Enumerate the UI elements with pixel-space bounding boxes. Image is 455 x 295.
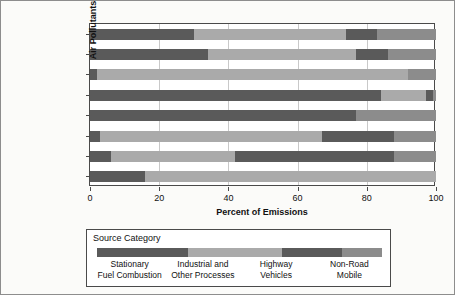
y-tick-mark <box>86 176 90 177</box>
legend-swatch <box>282 248 342 257</box>
bar-segment <box>90 29 194 40</box>
plot-area: Direct PM2.5Direct PM10NH3SO2NOxVOCCOLea… <box>89 23 435 186</box>
x-tick-mark <box>367 187 368 191</box>
bar-row <box>90 69 434 80</box>
legend-swatch <box>342 248 382 257</box>
bar-segment <box>97 69 408 80</box>
bar-row <box>90 49 434 60</box>
bar-row <box>90 171 434 182</box>
x-tick-label: 40 <box>208 193 248 203</box>
bar-segment <box>408 69 436 80</box>
bar-segment <box>381 90 426 101</box>
y-tick-mark <box>86 115 90 116</box>
legend-label: StationaryFuel Combustion <box>93 259 166 281</box>
bar-row <box>90 110 434 121</box>
bar-segment <box>90 151 111 162</box>
legend-swatch <box>97 248 188 257</box>
legend-label: HighwayVehicles <box>240 259 313 281</box>
legend-swatch <box>188 248 282 257</box>
bars-group <box>90 24 434 185</box>
legend-labels: StationaryFuel CombustionIndustrial andO… <box>93 259 386 281</box>
bar-segment <box>90 110 242 121</box>
x-axis-title: Percent of Emissions <box>89 207 435 217</box>
legend-swatch-bar <box>97 248 382 257</box>
bar-segment <box>145 171 436 182</box>
bar-segment <box>100 131 321 142</box>
bar-segment <box>346 29 377 40</box>
bar-segment <box>388 49 436 60</box>
legend-title: Source Category <box>93 233 161 243</box>
bar-segment <box>208 49 357 60</box>
bar-segment <box>90 90 381 101</box>
bar-segment <box>242 110 356 121</box>
bar-row <box>90 151 434 162</box>
y-axis-title: Air Pollutants <box>88 0 98 80</box>
y-tick-mark <box>86 95 90 96</box>
x-tick-mark <box>298 187 299 191</box>
bar-segment <box>433 90 436 101</box>
bar-segment <box>90 49 208 60</box>
bar-segment <box>111 151 236 162</box>
bar-segment <box>394 151 436 162</box>
bar-segment <box>377 29 436 40</box>
bar-segment <box>194 29 346 40</box>
bar-segment <box>356 110 436 121</box>
x-tick-label: 0 <box>70 193 110 203</box>
bar-segment <box>426 90 433 101</box>
bar-row <box>90 29 434 40</box>
x-tick-label: 60 <box>278 193 318 203</box>
legend: Source Category StationaryFuel Combustio… <box>86 229 391 287</box>
x-tick-mark <box>90 187 91 191</box>
bar-segment <box>90 131 100 142</box>
bar-segment <box>90 171 145 182</box>
legend-label: Industrial andOther Processes <box>166 259 239 281</box>
y-tick-mark <box>86 136 90 137</box>
bar-segment <box>235 151 394 162</box>
bar-segment <box>394 131 436 142</box>
x-tick-label: 100 <box>416 193 455 203</box>
bar-segment <box>356 49 387 60</box>
x-tick-label: 20 <box>139 193 179 203</box>
bar-row <box>90 90 434 101</box>
legend-label: Non-RoadMobile <box>313 259 386 281</box>
y-tick-mark <box>86 156 90 157</box>
x-tick-label: 80 <box>347 193 387 203</box>
bar-segment <box>322 131 395 142</box>
bar-row <box>90 131 434 142</box>
x-tick-mark <box>228 187 229 191</box>
x-tick-mark <box>436 187 437 191</box>
figure-container: Direct PM2.5Direct PM10NH3SO2NOxVOCCOLea… <box>0 0 455 295</box>
x-tick-mark <box>159 187 160 191</box>
